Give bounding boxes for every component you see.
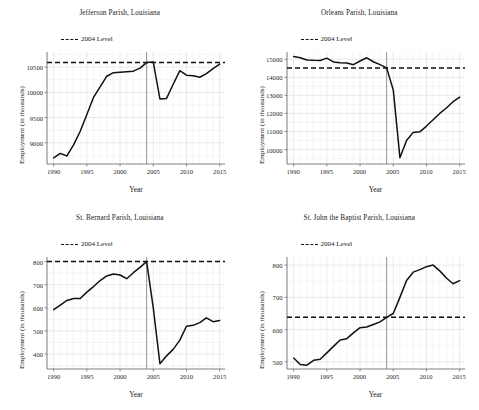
- y-tick-label: 700: [248, 294, 283, 301]
- x-tick-label: 2010: [419, 168, 432, 175]
- x-tick-label: 2010: [180, 168, 193, 175]
- employment-series-line: [54, 62, 220, 158]
- x-tick-label: 1990: [287, 168, 300, 175]
- y-tick-label: 800: [248, 262, 283, 269]
- y-tick-label: 14000: [248, 74, 283, 81]
- x-tick-label: 2015: [453, 168, 466, 175]
- x-tick-label: 1995: [320, 168, 333, 175]
- x-tick-label: 2005: [147, 168, 160, 175]
- y-tick-label: 11000: [248, 128, 283, 135]
- employment-series-line: [54, 262, 220, 364]
- y-tick-label: 400: [8, 350, 43, 357]
- employment-series-line: [293, 265, 459, 365]
- x-tick-label: 2005: [386, 373, 399, 380]
- x-tick-label: 2010: [419, 373, 432, 380]
- y-tick-label: 700: [8, 281, 43, 288]
- chart-panel-2: St. Bernard Parish, Louisiana 2004 Level…: [0, 205, 240, 410]
- y-tick-label: 500: [248, 358, 283, 365]
- x-tick-label: 2000: [113, 373, 126, 380]
- y-tick-label: 600: [8, 304, 43, 311]
- x-tick-label: 1990: [287, 373, 300, 380]
- x-tick-label: 2000: [353, 373, 366, 380]
- y-tick-label: 10000: [8, 89, 43, 96]
- x-tick-label: 2010: [180, 373, 193, 380]
- y-tick-label: 9000: [8, 139, 43, 146]
- y-tick-label: 10000: [248, 146, 283, 153]
- x-tick-label: 2000: [113, 168, 126, 175]
- y-tick-label: 9500: [8, 114, 43, 121]
- y-tick-label: 500: [8, 327, 43, 334]
- chart-panel-3: St. John the Baptist Parish, Louisiana 2…: [240, 205, 479, 410]
- y-tick-label: 10500: [8, 64, 43, 71]
- x-tick-label: 2015: [213, 373, 226, 380]
- x-tick-label: 1995: [80, 373, 93, 380]
- x-tick-label: 2015: [453, 373, 466, 380]
- y-tick-label: 600: [248, 326, 283, 333]
- y-tick-label: 13000: [248, 92, 283, 99]
- chart-panel-1: Orleans Parish, Louisiana 2004 LevelEmpl…: [240, 0, 479, 205]
- chart-panel-0: Jefferson Parish, Louisiana 2004 LevelEm…: [0, 0, 240, 205]
- x-tick-label: 1995: [320, 373, 333, 380]
- x-tick-label: 2005: [386, 168, 399, 175]
- employment-series-line: [293, 57, 459, 158]
- x-tick-label: 2000: [353, 168, 366, 175]
- x-tick-label: 2005: [147, 373, 160, 380]
- x-tick-label: 1995: [80, 168, 93, 175]
- y-tick-label: 12000: [248, 110, 283, 117]
- x-tick-label: 2015: [213, 168, 226, 175]
- x-tick-label: 1990: [47, 168, 60, 175]
- x-tick-label: 1990: [47, 373, 60, 380]
- chart-grid: Jefferson Parish, Louisiana 2004 LevelEm…: [0, 0, 479, 410]
- y-tick-label: 15000: [248, 56, 283, 63]
- y-tick-label: 800: [8, 258, 43, 265]
